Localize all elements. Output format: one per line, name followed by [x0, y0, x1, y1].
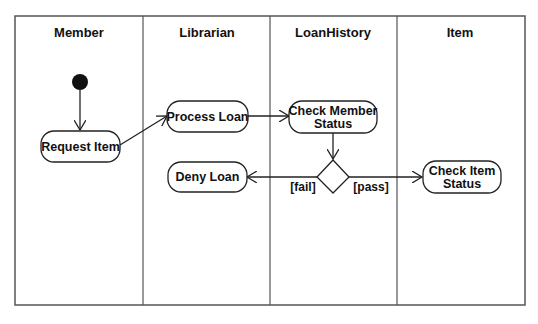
activity-label-line1: Check Item — [429, 164, 496, 178]
lane-title-item: Item — [447, 25, 474, 40]
activity-label-line1: Check Member — [289, 104, 378, 118]
guard-pass: [pass] — [353, 180, 388, 194]
activity-label: Process Loan — [167, 110, 249, 124]
initial-node — [72, 74, 88, 90]
activity-label: Deny Loan — [176, 170, 240, 184]
lane-title-librarian: Librarian — [179, 25, 235, 40]
lane-title-loanhistory: LoanHistory — [295, 25, 372, 40]
guard-fail: [fail] — [290, 180, 315, 194]
decision-node — [317, 160, 349, 193]
activity-label-line2: Status — [314, 117, 352, 131]
activity-label-line2: Status — [443, 177, 481, 191]
activity-label: Request Item — [41, 140, 120, 154]
activity-diagram: Member Librarian LoanHistory Item Reques… — [0, 0, 538, 324]
lane-title-member: Member — [54, 25, 104, 40]
